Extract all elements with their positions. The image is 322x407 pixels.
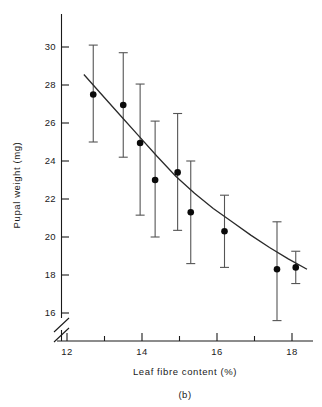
figure-panel: 1618202224262830 12141618 Leaf fibre con…	[0, 0, 322, 407]
panel-label: (b)	[178, 389, 191, 400]
data-point-marker	[152, 177, 159, 184]
x-tick-label: 14	[136, 346, 147, 357]
data-point-marker	[90, 91, 97, 98]
y-axis-title: Pupal weight (mg)	[11, 142, 22, 229]
error-bars	[89, 45, 301, 321]
y-tick-label: 28	[45, 79, 56, 90]
y-axis-ticks: 1618202224262830	[45, 41, 69, 318]
x-tick-label: 16	[211, 346, 222, 357]
data-point-marker	[120, 102, 127, 109]
y-tick-label: 18	[45, 269, 56, 280]
x-tick-label: 18	[286, 346, 297, 357]
y-tick-label: 20	[45, 231, 56, 242]
y-tick-label: 30	[45, 41, 56, 52]
data-point-marker	[221, 228, 228, 235]
y-tick-label: 26	[45, 117, 56, 128]
data-point-marker	[137, 140, 144, 147]
x-axis-title: Leaf fibre content (%)	[133, 366, 237, 377]
data-points	[90, 91, 299, 272]
x-axis-ticks: 12141618	[61, 333, 297, 357]
pupal-weight-vs-fibre-scatter-chart: 1618202224262830 12141618 Leaf fibre con…	[0, 0, 322, 407]
data-point-marker	[174, 169, 181, 176]
y-tick-label: 16	[45, 307, 56, 318]
y-tick-label: 22	[45, 193, 56, 204]
y-tick-label: 24	[45, 155, 56, 166]
data-point-marker	[292, 264, 299, 271]
fitted-trend-curve	[84, 75, 307, 270]
data-point-marker	[187, 209, 194, 216]
data-point-marker	[274, 266, 281, 273]
x-tick-label: 12	[61, 346, 72, 357]
